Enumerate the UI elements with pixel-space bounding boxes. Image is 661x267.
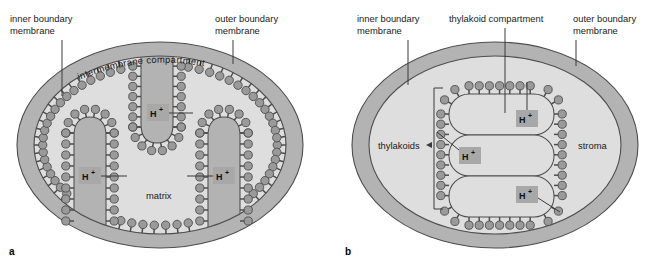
atp-synthase-particle	[216, 72, 224, 80]
atp-synthase-particle	[440, 207, 448, 215]
thylakoid-disc-bottom	[449, 176, 554, 217]
atp-synthase-particle	[168, 142, 176, 150]
atp-synthase-particle	[244, 195, 252, 203]
outer-boundary-membrane-label-a-line1: outer boundary	[215, 13, 278, 24]
atp-synthase-particle	[440, 96, 448, 104]
atp-synthase-particle	[158, 147, 166, 155]
atp-synthase-particle	[62, 129, 70, 137]
outer-boundary-membrane-label-b-line1: outer boundary	[573, 13, 636, 24]
atp-synthase-particle	[129, 82, 137, 90]
atp-synthase-particle	[162, 221, 170, 229]
atp-synthase-particle	[437, 110, 445, 118]
proton-label-b-3: H	[519, 191, 526, 201]
atp-synthase-particle	[526, 221, 534, 229]
stroma-label-b: stroma	[578, 140, 607, 151]
atp-synthase-particle	[139, 220, 147, 228]
atp-synthase-particle	[196, 195, 204, 203]
atp-synthase-particle	[110, 195, 118, 203]
atp-synthase-particle	[244, 173, 252, 181]
atp-synthase-particle	[544, 85, 552, 93]
matrix-label-a: matrix	[146, 190, 172, 201]
atp-synthase-particle	[129, 72, 137, 80]
atp-synthase-particle	[131, 133, 139, 141]
atp-synthase-particle	[496, 221, 504, 229]
atp-synthase-particle	[177, 92, 185, 100]
atp-synthase-particle	[506, 221, 514, 229]
atp-synthase-particle	[558, 151, 566, 159]
atp-synthase-particle	[255, 183, 263, 191]
atp-synthase-particle	[244, 151, 252, 159]
atp-synthase-particle	[196, 151, 204, 159]
atp-synthase-particle	[196, 206, 204, 214]
atp-synthase-particle	[62, 151, 70, 159]
atp-synthase-particle	[138, 142, 146, 150]
panel-label-b: b	[345, 246, 351, 257]
atp-synthase-particle	[242, 118, 250, 126]
atp-synthase-particle	[62, 140, 70, 148]
atp-synthase-particle	[62, 162, 70, 170]
atp-synthase-particle	[110, 206, 118, 214]
inner-boundary-membrane-label-a-line2: membrane	[10, 25, 55, 36]
panel-label-a: a	[9, 246, 15, 257]
atp-synthase-particle	[81, 105, 89, 113]
atp-synthase-particle	[244, 184, 252, 192]
atp-synthase-particle	[129, 113, 137, 121]
atp-synthase-particle	[558, 181, 566, 189]
atp-synthase-particle	[451, 85, 459, 93]
atp-synthase-particle	[70, 86, 78, 94]
atp-synthase-particle	[129, 103, 137, 111]
inner-boundary-membrane-label-a-line1: inner boundary	[10, 13, 73, 24]
atp-synthase-particle	[198, 118, 206, 126]
outer-boundary-membrane-label-b-line2: membrane	[573, 25, 618, 36]
atp-synthase-particle	[196, 217, 204, 225]
atp-synthase-particle	[101, 110, 109, 118]
atp-synthase-particle	[516, 221, 524, 229]
atp-synthase-particle	[62, 184, 70, 192]
organelle-membrane-diagram: H + H + H + intermembrane compartment ma…	[0, 0, 661, 267]
crista-top-center-a	[141, 52, 173, 143]
atp-synthase-particle	[475, 82, 483, 90]
atp-synthase-particle	[437, 120, 445, 128]
thylakoid-disc-top	[449, 94, 554, 135]
atp-synthase-particle	[496, 82, 504, 90]
atp-synthase-particle	[437, 192, 445, 200]
atp-synthase-particle	[196, 162, 204, 170]
atp-synthase-particle	[64, 118, 72, 126]
thylakoids-label-b: thylakoids	[378, 140, 420, 151]
proton-superscript-b-1: +	[528, 112, 532, 119]
proton-superscript-b-2: +	[471, 149, 475, 156]
atp-synthase-particle	[516, 82, 524, 90]
atp-synthase-particle	[242, 86, 250, 94]
atp-synthase-particle	[177, 123, 185, 131]
proton-label-a-3: H	[216, 172, 223, 182]
atp-synthase-particle	[437, 171, 445, 179]
atp-synthase-particle	[173, 220, 181, 228]
atp-synthase-particle	[244, 129, 252, 137]
atp-synthase-particle	[177, 82, 185, 90]
atp-synthase-particle	[62, 173, 70, 181]
atp-synthase-particle	[91, 105, 99, 113]
atp-synthase-particle	[62, 206, 70, 214]
thylakoid-compartment-label-b: thylakoid compartment	[449, 13, 544, 24]
proton-label-a-2: H	[82, 172, 89, 182]
atp-synthase-particle	[558, 171, 566, 179]
proton-superscript-a-2: +	[91, 169, 95, 176]
atp-synthase-particle	[184, 219, 192, 227]
atp-synthase-particle	[62, 217, 70, 225]
atp-synthase-particle	[437, 181, 445, 189]
atp-synthase-particle	[110, 140, 118, 148]
atp-synthase-particle	[465, 221, 473, 229]
atp-synthase-particle	[544, 217, 552, 225]
atp-synthase-particle	[110, 173, 118, 181]
proton-superscript-b-3: +	[528, 188, 532, 195]
atp-synthase-particle	[558, 130, 566, 138]
atp-synthase-particle	[225, 76, 233, 84]
proton-label-b-2: H	[462, 152, 469, 162]
atp-synthase-particle	[558, 161, 566, 169]
atp-synthase-particle	[475, 221, 483, 229]
atp-synthase-particle	[128, 219, 136, 227]
atp-synthase-particle	[485, 221, 493, 229]
inner-boundary-membrane-label-b-line1: inner boundary	[357, 13, 420, 24]
atp-synthase-particle	[62, 195, 70, 203]
atp-synthase-particle	[71, 110, 79, 118]
